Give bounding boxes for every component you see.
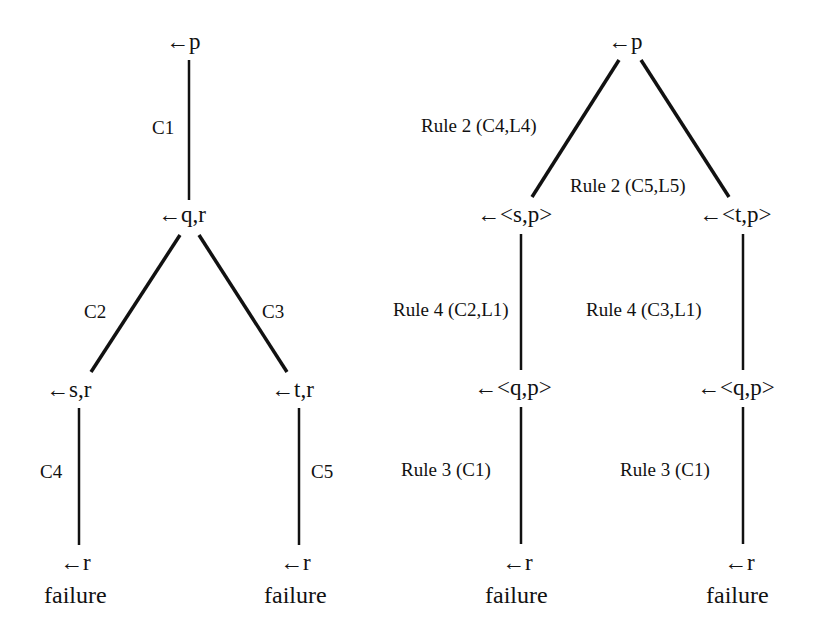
- left-failure-1: failure: [44, 583, 107, 607]
- right-qp-node-2: ←<q,p>: [697, 376, 775, 399]
- right-edge-label-rule3-2: Rule 3 (C1): [620, 460, 710, 479]
- left-root-node: ←p: [166, 30, 201, 53]
- left-edge-label-c5: C5: [311, 462, 333, 481]
- right-r-node-2: ←r: [724, 551, 755, 574]
- left-tr-node: ←t,r: [271, 378, 314, 401]
- right-edge-label-rule4-c2: Rule 4 (C2,L1): [393, 300, 509, 319]
- right-failure-1: failure: [485, 583, 548, 607]
- right-edge-label-rule2-c5: Rule 2 (C5,L5): [570, 176, 686, 195]
- left-sr-node: ←s,r: [46, 378, 91, 401]
- left-edge-label-c2: C2: [84, 302, 106, 321]
- right-failure-2: failure: [706, 583, 769, 607]
- left-edge-label-c1: C1: [152, 118, 174, 137]
- left-r-node-1: ←r: [60, 551, 91, 574]
- left-failure-2: failure: [264, 583, 327, 607]
- right-edge-label-rule4-c3: Rule 4 (C3,L1): [586, 300, 702, 319]
- right-qp-node-1: ←<q,p>: [474, 376, 552, 399]
- right-edge-label-rule2-c4: Rule 2 (C4,L4): [421, 116, 537, 135]
- right-tp-node: ←<t,p>: [699, 203, 772, 226]
- left-edge-label-c3: C3: [262, 302, 284, 321]
- right-root-node: ←p: [608, 30, 643, 53]
- left-r-node-2: ←r: [280, 551, 311, 574]
- left-qr-node: ←q,r: [158, 203, 206, 226]
- right-r-node-1: ←r: [502, 551, 533, 574]
- right-edge-label-rule3-1: Rule 3 (C1): [401, 460, 491, 479]
- left-edge-label-c4: C4: [40, 462, 62, 481]
- tree-edges: [0, 0, 828, 643]
- right-sp-node: ←<s,p>: [477, 203, 552, 226]
